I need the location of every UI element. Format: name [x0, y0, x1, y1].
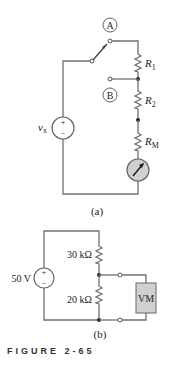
caption-a: (a) [91, 205, 104, 218]
resistor-20k [96, 275, 102, 320]
rm-label: RM [144, 135, 159, 150]
circuit-b: 30 kΩ 20 kΩ VM + − 50 V (b) [11, 231, 156, 341]
wire-vm-top [122, 275, 146, 283]
source-b-label: 50 V [11, 273, 31, 284]
figure-caption: FIGURE 2-65 [7, 346, 95, 356]
switch-contact [108, 39, 112, 43]
wire-top [112, 41, 138, 52]
label-b: B [107, 90, 114, 101]
source-b-minus: − [42, 279, 47, 288]
terminal-top [118, 273, 122, 277]
wire-left-top [63, 61, 90, 117]
source-minus: − [61, 129, 66, 138]
circuit-a: A R1 B R2 RM + − vx (a) [38, 18, 159, 218]
r-top-label: 30 kΩ [67, 249, 92, 260]
resistor-rm [135, 120, 141, 159]
r1-label: R1 [144, 57, 156, 72]
voltmeter-label: VM [138, 293, 154, 304]
r2-label: R2 [144, 94, 156, 109]
resistor-r1 [135, 52, 141, 79]
resistor-r2 [135, 79, 141, 120]
resistor-30k [96, 243, 102, 275]
vx-label: vx [38, 121, 47, 135]
terminal-bottom [118, 318, 122, 322]
source-b-plus: + [42, 268, 47, 277]
r-bottom-label: 20 kΩ [67, 294, 92, 305]
label-a: A [106, 20, 114, 31]
wire-vm-bottom [122, 313, 146, 320]
figure: A R1 B R2 RM + − vx (a) 30 kΩ [0, 0, 170, 365]
terminal-b [108, 77, 112, 81]
caption-b: (b) [94, 328, 107, 341]
source-plus: + [61, 118, 66, 127]
wire-bottom [63, 139, 138, 194]
